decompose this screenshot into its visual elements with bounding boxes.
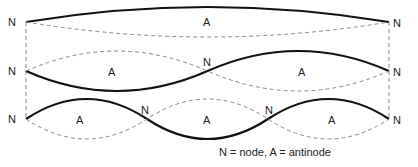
antinode-label: A	[203, 114, 211, 126]
row-third-harmonic: N A N A N A N	[8, 99, 401, 139]
node-label: N	[8, 16, 16, 28]
node-label: N	[8, 65, 16, 77]
node-label: N	[393, 17, 401, 29]
node-label: N	[393, 114, 401, 126]
row-first-harmonic: N A N	[8, 7, 401, 37]
node-label: N	[8, 113, 16, 125]
standing-waves-diagram: N A N N A N A N N A N A N A N N = node, …	[0, 0, 418, 167]
node-label: N	[141, 104, 149, 116]
antinode-label: A	[76, 114, 84, 126]
node-label: N	[393, 66, 401, 78]
node-label: N	[265, 104, 273, 116]
antinode-label: A	[328, 114, 336, 126]
antinode-label: A	[108, 66, 116, 78]
node-label: N	[203, 56, 211, 68]
row-second-harmonic: N A N A N	[8, 51, 401, 91]
legend-caption: N = node, A = antinode	[219, 146, 331, 158]
antinode-label: A	[203, 16, 211, 28]
antinode-label: A	[298, 66, 306, 78]
